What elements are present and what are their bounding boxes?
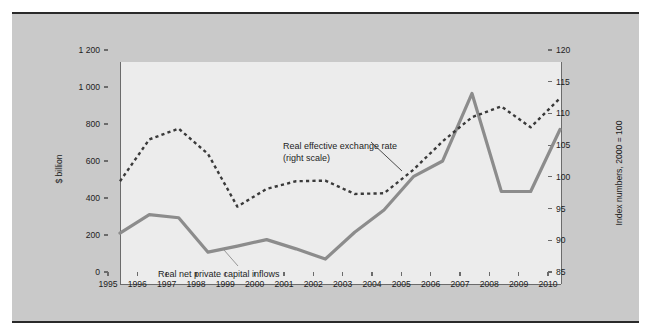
y-axis-title-left: $ billion: [55, 154, 64, 183]
y-axis-ticklabel-left: 200: [66, 231, 100, 240]
y-axis-tickmark-left: [104, 234, 108, 235]
y-axis-tickmark-left: [104, 160, 108, 161]
y-axis-ticklabel-right: 95: [556, 204, 590, 213]
y-axis-title-right: Index numbers, 2000 = 100: [615, 121, 624, 226]
y-axis-ticklabel-right: 105: [556, 141, 590, 150]
annotation-exchange-rate-line1: Real effective exchange rate: [283, 140, 397, 152]
y-axis-ticklabel-left: 0: [66, 268, 100, 277]
x-axis-ticklabel: 1995: [98, 280, 117, 289]
y-axis-ticklabel-right: 100: [556, 173, 590, 182]
leader-line-capital-inflows: [224, 250, 238, 266]
series-line-capital-inflows: [120, 93, 560, 259]
y-axis-ticklabel-left: 1 200: [66, 46, 100, 55]
y-axis-ticklabel-right: 85: [556, 268, 590, 277]
y-axis-ticklabel-right: 110: [556, 109, 590, 118]
y-axis-ticklabel-right: 120: [556, 46, 590, 55]
y-axis-tickmark-left: [104, 197, 108, 198]
chart-figure: $ billion Index numbers, 2000 = 100 0200…: [0, 0, 651, 335]
annotation-exchange-rate-line2: (right scale): [283, 152, 397, 164]
y-axis-ticklabel-left: 600: [66, 157, 100, 166]
y-axis-ticklabel-right: 115: [556, 77, 590, 86]
y-axis-tickmark-left: [104, 86, 108, 87]
chart-panel: $ billion Index numbers, 2000 = 100 0200…: [12, 12, 639, 323]
y-axis-tickmark-left: [104, 123, 108, 124]
annotation-capital-inflows: Real net private capital inflows: [158, 268, 280, 280]
y-axis-ticklabel-left: 800: [66, 120, 100, 129]
y-axis-ticklabel-right: 90: [556, 236, 590, 245]
y-axis-tickmark-left: [104, 49, 108, 50]
y-axis-ticklabel-left: 400: [66, 194, 100, 203]
series-layer: [120, 62, 560, 284]
x-axis-tickmark: [107, 272, 108, 276]
y-axis-tickmark-right: [548, 49, 552, 50]
y-axis-ticklabel-left: 1 000: [66, 83, 100, 92]
annotation-exchange-rate: Real effective exchange rate (right scal…: [283, 140, 397, 164]
